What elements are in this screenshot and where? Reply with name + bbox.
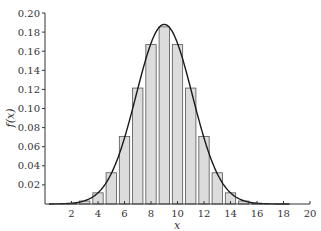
x-tick-label: 12 xyxy=(198,208,211,219)
bar-5 xyxy=(106,173,116,204)
y-tick-label: 0.10 xyxy=(18,103,40,114)
x-tick-label: 4 xyxy=(95,208,101,219)
x-tick-label: 8 xyxy=(148,208,154,219)
y-tick-label: 0.14 xyxy=(18,65,40,76)
bars xyxy=(66,27,262,204)
y-tick-label: 0.20 xyxy=(18,8,40,19)
bar-8 xyxy=(146,45,156,204)
bar-10 xyxy=(172,45,182,204)
x-tick-label: 2 xyxy=(68,208,74,219)
bar-12 xyxy=(199,136,209,204)
y-tick-label: 0.16 xyxy=(18,46,40,57)
x-tick-label: 16 xyxy=(251,208,264,219)
bar-9 xyxy=(159,27,169,204)
x-tick-label: 6 xyxy=(121,208,127,219)
y-tick-label: 0.08 xyxy=(18,122,40,133)
x-tick-label: 20 xyxy=(304,208,317,219)
y-tick-label: 0.12 xyxy=(18,84,40,95)
y-tick-label: 0.18 xyxy=(18,27,40,38)
y-tick-label: 0.04 xyxy=(18,160,40,171)
bar-13 xyxy=(212,173,222,204)
bar-6 xyxy=(119,136,129,204)
x-axis-label: x xyxy=(174,219,181,231)
chart: 0.020.040.060.080.100.120.140.160.180.20… xyxy=(0,0,321,231)
x-tick-label: 14 xyxy=(224,208,237,219)
y-tick-label: 0.06 xyxy=(18,141,40,152)
y-tick-label: 0.02 xyxy=(18,179,40,190)
x-tick-label: 10 xyxy=(171,208,184,219)
x-tick-label: 18 xyxy=(277,208,290,219)
y-axis-label: f(x) xyxy=(4,109,17,129)
